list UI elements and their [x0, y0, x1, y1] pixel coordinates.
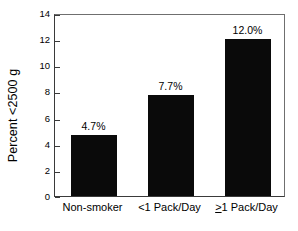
y-tick-mark	[55, 15, 60, 16]
y-tick-label: 10	[26, 62, 50, 72]
bar-value-label: 4.7%	[82, 121, 106, 132]
y-tick-mark	[55, 41, 60, 42]
plot-area: 4.7%7.7%12.0%	[54, 14, 285, 197]
y-axis-tick-labels: 02468101214	[24, 0, 50, 231]
bar-chart-figure: Percent <2500 g 02468101214 4.7%7.7%12.0…	[0, 0, 298, 231]
y-tick-mark	[55, 172, 60, 173]
y-tick-label: 4	[26, 140, 50, 150]
y-tick-mark	[55, 146, 60, 147]
bar-value-label: 7.7%	[159, 81, 183, 92]
x-tick-label: <1 Pack/Day	[138, 201, 201, 214]
y-tick-label: 6	[26, 114, 50, 124]
y-tick-mark	[55, 120, 60, 121]
y-tick-label: 0	[26, 192, 50, 202]
x-axis-tick-labels: Non-smoker<1 Pack/Day>1 Pack/Day	[54, 201, 285, 221]
bar: 12.0%	[225, 39, 271, 196]
y-tick-label: 14	[26, 9, 50, 19]
x-tick-label: Non-smoker	[63, 201, 123, 214]
x-tick-label: >1 Pack/Day	[215, 201, 278, 214]
y-tick-mark	[55, 67, 60, 68]
y-tick-label: 12	[26, 35, 50, 45]
y-tick-label: 2	[26, 166, 50, 176]
greater-or-equal-symbol: >	[215, 201, 221, 213]
bar-value-label: 12.0%	[233, 25, 263, 36]
y-axis-title: Percent <2500 g	[0, 0, 26, 231]
bar: 7.7%	[148, 95, 194, 196]
y-tick-label: 8	[26, 88, 50, 98]
y-tick-mark	[55, 93, 60, 94]
y-tick-mark	[55, 197, 60, 198]
bar: 4.7%	[71, 135, 117, 196]
